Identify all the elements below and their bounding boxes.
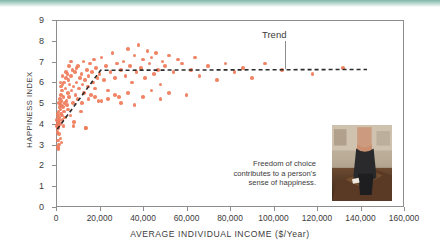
y-tick-label: 6 bbox=[39, 78, 44, 87]
scatter-point bbox=[70, 89, 74, 93]
scatter-point bbox=[126, 91, 130, 95]
scatter-point bbox=[57, 147, 61, 151]
scatter-point bbox=[172, 70, 176, 74]
scatter-point bbox=[56, 126, 60, 130]
scatter-point bbox=[81, 83, 85, 87]
scatter-point bbox=[119, 68, 123, 72]
scatter-point bbox=[59, 85, 63, 89]
scatter-point bbox=[84, 126, 88, 130]
scatter-point bbox=[64, 87, 68, 91]
scatter-point bbox=[89, 93, 93, 97]
scatter-point bbox=[86, 85, 90, 89]
ballot-box-photo bbox=[331, 124, 393, 202]
x-tick-mark bbox=[56, 207, 57, 211]
x-tick-label: 120,000 bbox=[302, 214, 332, 223]
scatter-point bbox=[65, 99, 69, 103]
scatter-point bbox=[83, 78, 87, 82]
x-tick-label: 140,000 bbox=[345, 214, 375, 223]
scatter-point bbox=[233, 70, 237, 74]
scatter-point bbox=[100, 99, 104, 103]
scatter-point bbox=[128, 64, 132, 68]
scatter-point bbox=[90, 70, 94, 74]
x-tick-label: 20,000 bbox=[87, 214, 113, 223]
scatter-point bbox=[311, 72, 315, 76]
scatter-point bbox=[250, 76, 254, 80]
scatter-point bbox=[62, 95, 66, 99]
scatter-point bbox=[159, 97, 163, 101]
scatter-point bbox=[56, 139, 60, 143]
scatter-point bbox=[167, 91, 171, 95]
scatter-point bbox=[104, 64, 108, 68]
scatter-point bbox=[167, 54, 171, 58]
x-tick-label: 80,000 bbox=[217, 214, 243, 223]
scatter-point bbox=[74, 93, 78, 97]
scatter-point bbox=[113, 76, 117, 80]
scatter-point bbox=[72, 120, 76, 124]
x-tick-mark bbox=[143, 207, 144, 211]
scatter-point bbox=[57, 143, 61, 147]
x-tick-label: 60,000 bbox=[174, 214, 200, 223]
scatter-point bbox=[68, 83, 72, 87]
trend-leader-line bbox=[285, 41, 286, 69]
scatter-point bbox=[189, 68, 193, 72]
scatter-point bbox=[93, 87, 97, 91]
scatter-point bbox=[122, 60, 126, 64]
scatter-point bbox=[87, 74, 91, 78]
x-tick-mark bbox=[187, 207, 188, 211]
scatter-point bbox=[98, 72, 102, 76]
trend-annotation-label: Trend bbox=[262, 29, 286, 40]
scatter-point bbox=[88, 62, 92, 66]
scatter-point bbox=[146, 49, 150, 53]
scatter-point bbox=[150, 89, 154, 93]
x-axis: 020,00040,00060,00080,000100,000120,0001… bbox=[56, 207, 404, 229]
scatter-point bbox=[57, 132, 61, 136]
scatter-point bbox=[185, 93, 189, 97]
scatter-point bbox=[224, 62, 228, 66]
scatter-point bbox=[152, 72, 156, 76]
y-tick-label: 8 bbox=[39, 36, 44, 45]
scatter-point bbox=[79, 110, 83, 114]
scatter-point bbox=[100, 56, 104, 60]
scatter-point bbox=[71, 101, 75, 105]
scatter-point bbox=[67, 95, 71, 99]
scatter-point bbox=[135, 70, 139, 74]
scatter-point bbox=[341, 66, 345, 70]
happiness-income-scatter-chart: HAPPINESS INDEX 0123456789 Trend Freedom… bbox=[0, 7, 440, 249]
scatter-point bbox=[280, 68, 284, 72]
scatter-point bbox=[206, 64, 210, 68]
scatter-point bbox=[91, 81, 95, 85]
scatter-point bbox=[85, 68, 89, 72]
scatter-point bbox=[77, 87, 81, 91]
scatter-point bbox=[65, 103, 69, 107]
x-tick-label: 40,000 bbox=[130, 214, 156, 223]
scatter-point bbox=[133, 103, 137, 107]
y-tick-label: 4 bbox=[39, 119, 44, 128]
scatter-point bbox=[82, 91, 86, 95]
scatter-point bbox=[106, 89, 110, 93]
scatter-point bbox=[139, 66, 143, 70]
scatter-point bbox=[66, 91, 70, 95]
scatter-point bbox=[92, 58, 96, 62]
scatter-point bbox=[80, 72, 84, 76]
scatter-point bbox=[193, 56, 197, 60]
scatter-point bbox=[115, 62, 119, 66]
x-tick-mark bbox=[404, 207, 405, 211]
x-axis-title: AVERAGE INDIVIDUAL INCOME ($/Year) bbox=[0, 229, 440, 239]
y-tick-label: 2 bbox=[39, 161, 44, 170]
x-tick-label: 100,000 bbox=[258, 214, 288, 223]
y-tick-label: 1 bbox=[39, 182, 44, 191]
scatter-point bbox=[119, 101, 123, 105]
scatter-point bbox=[69, 74, 73, 78]
scatter-point bbox=[159, 83, 163, 87]
scatter-point bbox=[82, 60, 86, 64]
scatter-point bbox=[126, 47, 130, 51]
scatter-point bbox=[141, 58, 145, 62]
scatter-point bbox=[176, 58, 180, 62]
scatter-point bbox=[76, 97, 80, 101]
x-tick-label: 160,000 bbox=[389, 214, 419, 223]
scatter-point bbox=[72, 85, 76, 89]
scatter-point bbox=[156, 68, 160, 72]
scatter-point bbox=[69, 60, 73, 64]
figure-caption: Freedom of choice contributes to a perso… bbox=[224, 159, 316, 188]
scatter-point bbox=[241, 66, 245, 70]
